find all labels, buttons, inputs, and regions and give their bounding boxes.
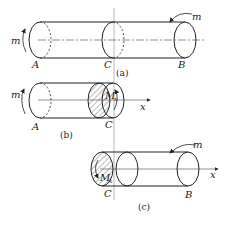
label-m: m bbox=[11, 89, 20, 100]
label-Mx-sub: x bbox=[109, 177, 113, 184]
caption-b: (b) bbox=[60, 130, 73, 140]
label-B: B bbox=[177, 59, 185, 70]
label-x-axis: x bbox=[140, 101, 146, 112]
caption-a: (a) bbox=[116, 68, 128, 78]
diagram-svg: m m A C B (a) m M x x A C (b) m M x bbox=[0, 0, 236, 226]
label-m: m bbox=[193, 139, 202, 150]
label-x-axis: x bbox=[210, 169, 216, 180]
panel-c: m M x x C B (c) bbox=[91, 139, 218, 212]
label-m-right: m bbox=[192, 11, 201, 22]
label-C: C bbox=[105, 119, 113, 130]
label-A: A bbox=[31, 59, 39, 70]
label-C: C bbox=[104, 59, 112, 70]
label-B: B bbox=[184, 189, 192, 200]
label-A: A bbox=[31, 121, 39, 132]
label-C: C bbox=[104, 188, 112, 199]
caption-c: (c) bbox=[138, 202, 150, 212]
torque-arrow-icon bbox=[23, 29, 26, 52]
torsion-diagram: m m A C B (a) m M x x A C (b) m M x bbox=[0, 0, 236, 226]
torque-arrow-icon bbox=[170, 13, 192, 22]
panel-a: m m A C B (a) bbox=[11, 11, 204, 78]
label-m-left: m bbox=[11, 35, 20, 46]
panel-b: m M x x A C (b) bbox=[11, 83, 150, 140]
torque-arrow-icon bbox=[22, 89, 25, 114]
